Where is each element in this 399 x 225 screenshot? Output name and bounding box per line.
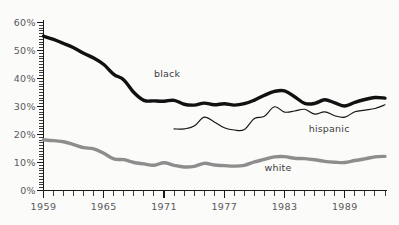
y-tick-label: 40% <box>14 73 36 84</box>
x-tick-label: 1977 <box>211 201 237 212</box>
series-line-white <box>44 140 386 167</box>
y-tick-label: 20% <box>14 129 36 140</box>
series-label-white: white <box>264 162 291 173</box>
x-tick-label: 1959 <box>31 201 57 212</box>
x-tick-label: 1965 <box>91 201 117 212</box>
series-line-black <box>44 36 386 106</box>
x-axis-tick-labels: 195919651971197719831989 <box>31 201 358 212</box>
series-label-black: black <box>154 68 181 79</box>
y-tick-label: 60% <box>14 17 36 28</box>
series-line-hispanic <box>174 105 385 131</box>
x-tick-label: 1989 <box>332 201 358 212</box>
series-label-hispanic: hispanic <box>309 123 350 134</box>
y-tick-label: 10% <box>14 157 36 168</box>
x-axis-minor-ticks <box>44 191 386 198</box>
chart-canvas: 60%50%40%30%20%10%0% 1959196519711977198… <box>0 0 399 225</box>
y-tick-label: 0% <box>20 185 36 196</box>
x-tick-label: 1971 <box>151 201 177 212</box>
series-lines <box>44 36 386 167</box>
y-axis-tick-labels: 60%50%40%30%20%10%0% <box>14 17 36 196</box>
x-tick-label: 1983 <box>272 201 298 212</box>
y-tick-label: 50% <box>14 45 36 56</box>
y-tick-label: 30% <box>14 101 36 112</box>
poverty-rate-line-chart: 60%50%40%30%20%10%0% 1959196519711977198… <box>0 0 399 225</box>
y-axis-minor-ticks <box>37 23 44 191</box>
